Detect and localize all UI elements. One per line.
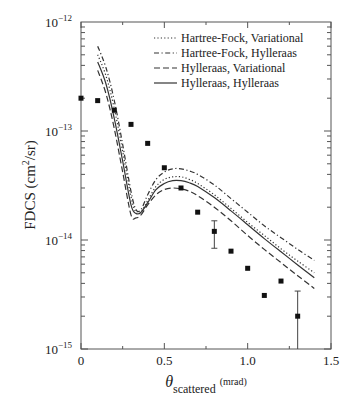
legend-label: Hartree-Fock, Hylleraas — [181, 46, 297, 60]
data-point — [229, 249, 234, 254]
data-point — [212, 229, 217, 234]
data-point — [129, 122, 134, 127]
y-tick-label: 10−15 — [45, 340, 73, 357]
data-point — [79, 96, 84, 101]
data-point — [145, 141, 150, 146]
legend-label: Hylleraas, Variational — [181, 61, 286, 75]
data-point — [262, 293, 267, 298]
curve-solid — [98, 62, 315, 278]
y-tick-label: 10−13 — [45, 122, 73, 139]
legend-label: Hartree-Fock, Variational — [181, 31, 304, 45]
y-tick-label: 10−12 — [45, 13, 72, 30]
x-tick-label: 0.5 — [156, 353, 172, 368]
data-point — [162, 165, 167, 170]
data-point — [245, 266, 250, 271]
legend: Hartree-Fock, VariationalHartree-Fock, H… — [154, 31, 304, 90]
data-point — [295, 314, 300, 319]
y-axis-label: FDCS (cm2/sr) — [20, 140, 39, 230]
x-axis-label: θscattered(mrad) — [165, 373, 247, 396]
fdcs-chart: 10−1210−1310−1410−15 00.51.01.5 Hartree-… — [0, 0, 351, 408]
experimental-points — [79, 96, 301, 349]
x-tick-label: 1.5 — [323, 353, 339, 368]
data-point — [195, 210, 200, 215]
curve-dashed — [98, 70, 315, 288]
x-tick-label: 1.0 — [240, 353, 256, 368]
data-point — [112, 108, 117, 113]
data-point — [179, 185, 184, 190]
data-point — [279, 279, 284, 284]
y-tick-labels: 10−1210−1310−1410−15 — [45, 13, 73, 357]
y-tick-label: 10−14 — [45, 231, 73, 248]
x-tick-labels: 00.51.01.5 — [78, 353, 339, 368]
data-point — [95, 98, 100, 103]
legend-label: Hylleraas, Hylleraas — [181, 76, 279, 90]
x-tick-label: 0 — [78, 353, 85, 368]
